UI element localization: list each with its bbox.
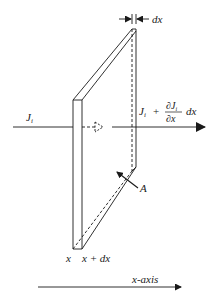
x-axis-label: x-axis [131,273,158,285]
flux-in-label: Ji [26,111,33,125]
x-plus-dx-label: x + dx [81,252,110,264]
svg-text:dx: dx [186,105,197,117]
svg-text:∂x: ∂x [166,113,176,124]
slab [73,29,136,249]
svg-text:∂Ji: ∂Ji [166,100,177,112]
flux-out-label: Ji + ∂Ji ∂x dx [139,100,197,124]
svg-text:Ji: Ji [139,105,146,119]
area-pointer-arrow [117,172,138,188]
area-label: A [139,182,147,194]
dx-label: dx [152,13,163,25]
x-label: x [65,252,71,264]
flux-in-arrow [13,122,103,132]
flux-slab-diagram: dx Ji Ji + ∂Ji ∂x dx A x x + dx x-axis [0,0,211,302]
dx-dimension [119,14,149,24]
svg-text:+: + [153,105,159,117]
